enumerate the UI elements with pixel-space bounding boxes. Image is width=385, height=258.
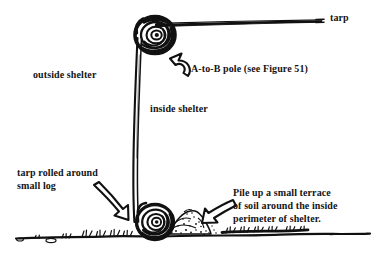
- label-tarp-rolled-around-small-log: tarp rolled around small log: [17, 166, 98, 192]
- label-pile-up-soil-terrace: Pile up a small terrace of soil around t…: [233, 186, 338, 225]
- figure-container: tarp outside shelter A-to-B pole (see Fi…: [0, 0, 385, 258]
- rolled-tarp-coil-bottom: [137, 203, 174, 240]
- tarp-wall-line: [133, 38, 141, 222]
- arrow-to-soil-pile: [202, 200, 236, 223]
- tarp-roof-line: [155, 19, 324, 27]
- arrow-to-pole: [170, 54, 190, 77]
- label-inside-shelter: inside shelter: [150, 102, 208, 115]
- label-outside-shelter: outside shelter: [33, 68, 96, 81]
- arrow-to-rolled-log: [94, 182, 129, 220]
- label-tarp: tarp: [330, 11, 349, 24]
- label-a-to-b-pole: A-to-B pole (see Figure 51): [191, 62, 308, 75]
- rolled-tarp-coil-top: [135, 17, 175, 54]
